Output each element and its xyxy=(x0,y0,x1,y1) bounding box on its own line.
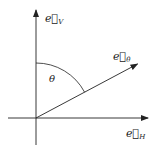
vector-diagram: e⃗V e⃗θ e⃗H θ xyxy=(0,0,157,148)
vertical-axis-label: e⃗V xyxy=(45,12,64,26)
horizontal-axis-label: e⃗H xyxy=(126,127,146,141)
vector-label: e⃗θ xyxy=(113,50,131,64)
angle-arc xyxy=(36,63,85,92)
angle-label: θ xyxy=(49,73,55,84)
